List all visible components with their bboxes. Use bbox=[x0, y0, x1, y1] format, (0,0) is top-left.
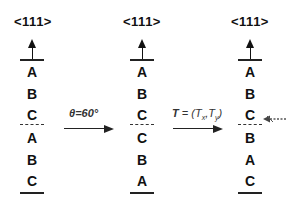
bottom-boundary-line bbox=[130, 192, 154, 194]
layer: C bbox=[22, 174, 42, 188]
direction-label: <111> bbox=[8, 14, 58, 29]
arrow-right-icon bbox=[104, 125, 114, 133]
arrow-shaft bbox=[142, 46, 144, 60]
layer: C bbox=[132, 131, 152, 145]
arrow-right-icon bbox=[213, 125, 223, 133]
top-boundary-line bbox=[20, 59, 44, 61]
layer: A bbox=[240, 65, 260, 79]
layer: A bbox=[132, 174, 152, 188]
arrow-shaft bbox=[32, 46, 34, 60]
translation-label: T = (Tx,Ty) bbox=[172, 107, 222, 121]
direction-label: <111> bbox=[225, 14, 275, 29]
top-boundary-line bbox=[238, 59, 262, 61]
layer: A bbox=[22, 65, 42, 79]
layer: C bbox=[240, 108, 260, 122]
layer: B bbox=[22, 153, 42, 167]
layer: A bbox=[240, 153, 260, 167]
rotation-label: θ=60° bbox=[69, 107, 98, 119]
layer: B bbox=[132, 87, 152, 101]
bottom-boundary-line bbox=[20, 192, 44, 194]
layer: A bbox=[22, 131, 42, 145]
top-boundary-line bbox=[130, 59, 154, 61]
layer: B bbox=[132, 153, 152, 167]
layer: C bbox=[240, 174, 260, 188]
layer: B bbox=[22, 87, 42, 101]
fault-plane-line bbox=[20, 124, 44, 125]
arrow-shaft bbox=[250, 46, 252, 60]
layer: C bbox=[22, 108, 42, 122]
layer: C bbox=[132, 108, 152, 122]
transform-arrow-shaft bbox=[173, 128, 214, 129]
layer: A bbox=[132, 65, 152, 79]
layer: B bbox=[240, 131, 260, 145]
direction-label: <111> bbox=[117, 14, 167, 29]
bottom-boundary-line bbox=[238, 192, 262, 194]
dashed-left-arrow-icon bbox=[263, 110, 287, 120]
transform-arrow-shaft bbox=[64, 128, 105, 129]
fault-plane-line bbox=[130, 124, 154, 125]
fault-plane-line bbox=[238, 124, 262, 125]
layer: B bbox=[240, 87, 260, 101]
